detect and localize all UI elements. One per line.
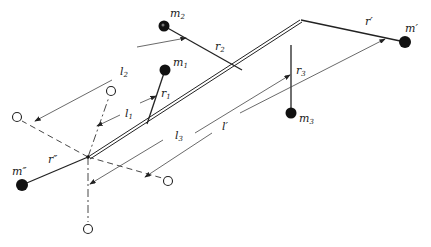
reference-circle-left [13, 113, 22, 122]
label-l-prime: l′ [222, 120, 229, 133]
axis-dashed-up [88, 97, 109, 157]
axis-dashed-right [88, 157, 162, 178]
mass-m3 [286, 108, 297, 119]
label-m1: m1 [173, 56, 188, 70]
axis-dashed-left [22, 121, 88, 157]
label-r-double-prime: r″ [48, 153, 58, 166]
label-l2: l2 [120, 65, 129, 79]
rod-r-prime [301, 20, 405, 42]
mass-m1 [160, 65, 171, 76]
reference-circle-bottom [84, 225, 93, 234]
label-r3: r3 [296, 64, 306, 78]
label-m3: m3 [299, 112, 314, 126]
reference-circle-right [164, 177, 173, 186]
mass-m-prime [399, 36, 411, 48]
label-r-prime: r′ [365, 15, 373, 28]
shaft-mass-diagram: m2 m1 m3 m′ m″ r2 r1 r3 r′ r″ l2 l1 l3 l… [0, 0, 431, 247]
mass-m-double-prime [16, 179, 28, 191]
label-l3: l3 [175, 129, 184, 143]
label-m-double-prime: m″ [12, 165, 27, 178]
label-m-prime: m′ [405, 22, 418, 35]
label-r1: r1 [161, 87, 171, 101]
label-m2: m2 [170, 7, 185, 21]
label-l1: l1 [125, 107, 133, 121]
reference-axes [22, 97, 162, 222]
label-r2: r2 [215, 40, 225, 54]
shaft [88, 20, 302, 159]
reference-circle-top [107, 87, 116, 96]
